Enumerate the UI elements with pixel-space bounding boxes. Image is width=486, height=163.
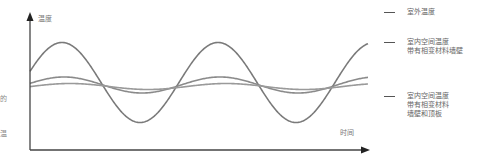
legend-label: 室外温度 [407, 8, 435, 17]
y-axis-arrow-icon [27, 12, 34, 21]
legend-item-indoor-pcm-walls: 室内空间温度 带有相变材料墙壁 [384, 38, 463, 56]
series-line-0 [30, 43, 368, 123]
legend-label: 室内空间温度 带有相变材料墙壁 [407, 38, 463, 56]
legend-item-outdoor: 室外温度 [384, 8, 435, 17]
legend-line-icon [384, 42, 395, 43]
legend-label: 室内空间温度 带有相变材料 墙壁和顶板 [407, 92, 449, 119]
series-line-2 [30, 84, 368, 90]
curves-group [30, 43, 368, 123]
legend-line-icon [384, 96, 395, 97]
cropped-edge-text-2: 温 [0, 128, 7, 138]
legend-line-icon [384, 12, 395, 13]
legend-item-indoor-pcm-walls-ceiling: 室内空间温度 带有相变材料 墙壁和顶板 [384, 92, 449, 119]
x-axis-arrow-icon [361, 147, 370, 154]
y-axis-label: 温度 [38, 13, 52, 23]
x-axis-label: 时间 [340, 127, 354, 137]
cropped-edge-text-1: 的 [0, 93, 7, 103]
legend: 室外温度 室内空间温度 带有相变材料墙壁 室内空间温度 带有相变材料 墙壁和顶板 [384, 0, 486, 163]
